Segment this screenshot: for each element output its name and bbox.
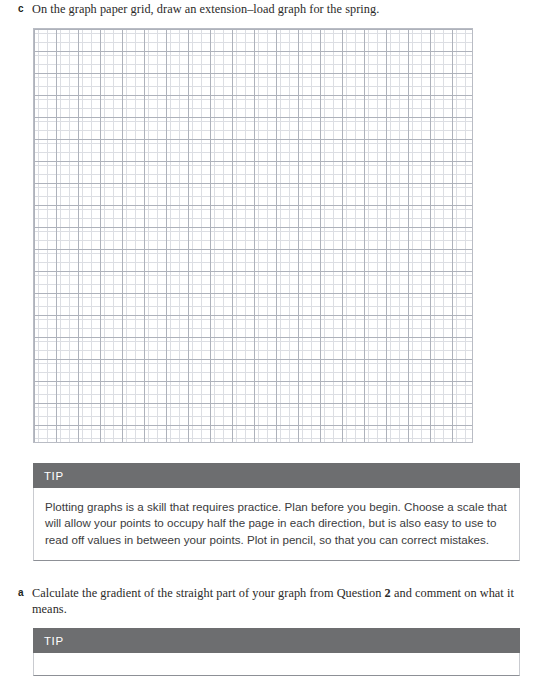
tip-box-second: TIP [33,628,520,676]
question-a-text-part1: Calculate the gradient of the straight p… [32,586,385,600]
tip-body: Plotting graphs is a skill that requires… [33,488,520,561]
question-c-text-part1: On the graph paper grid, draw an extensi… [32,2,379,16]
tip-header-label-2: TIP [44,635,64,647]
tip-header-2: TIP [33,628,520,653]
tip-box-plotting-graphs: TIP Plotting graphs is a skill that requ… [33,463,520,561]
question-a-letter: a [18,586,32,598]
question-a: a Calculate the gradient of the straight… [18,586,523,617]
question-c-text: On the graph paper grid, draw an extensi… [32,2,379,18]
question-a-text: Calculate the gradient of the straight p… [32,586,523,617]
graph-paper-grid [33,28,473,443]
tip-body-2 [33,653,520,676]
question-c: c On the graph paper grid, draw an exten… [18,2,518,18]
question-c-letter: c [18,2,32,14]
tip-header: TIP [33,463,520,488]
tip-header-label: TIP [44,470,64,482]
tip-body-text: Plotting graphs is a skill that requires… [45,499,507,548]
